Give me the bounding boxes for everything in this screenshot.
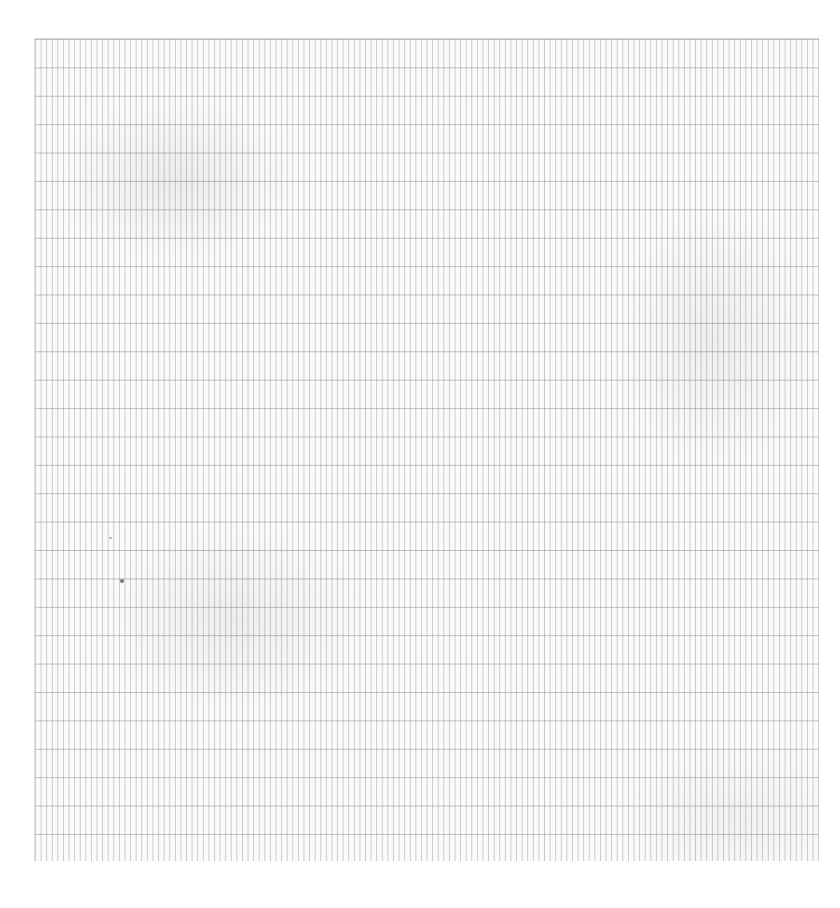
paper-speck [120, 579, 124, 583]
scan-shading [35, 39, 819, 861]
graph-paper-sheet [34, 38, 819, 861]
paper-speck [109, 537, 112, 539]
